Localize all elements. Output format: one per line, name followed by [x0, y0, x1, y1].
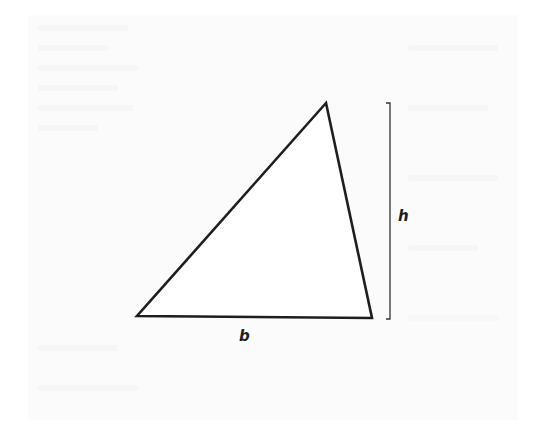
height-bracket — [386, 103, 390, 319]
base-label: b — [239, 329, 250, 344]
height-label: h — [398, 209, 409, 224]
triangle-shape — [137, 103, 372, 318]
triangle-diagram — [0, 0, 541, 444]
